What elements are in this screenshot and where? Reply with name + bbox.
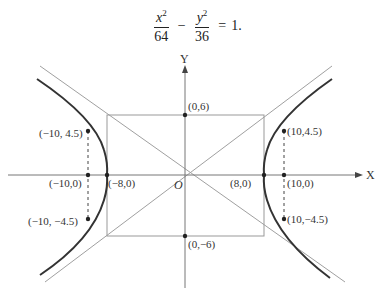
point-left-foot — [86, 173, 90, 177]
label-bottom: (0,−6) — [188, 238, 216, 251]
label-right-lower: (10,−4.5) — [287, 213, 328, 226]
point-right-vertex — [262, 173, 266, 177]
point-left-lower — [86, 217, 90, 221]
label-top: (0,6) — [188, 100, 209, 113]
label-left-upper: (−10, 4.5) — [39, 127, 83, 140]
origin-label: O — [174, 178, 183, 192]
point-left-upper — [86, 129, 90, 133]
point-right-lower — [282, 217, 286, 221]
y-axis-arrow-icon — [182, 65, 188, 73]
label-right-upper: (10,4.5) — [287, 125, 322, 138]
point-bottom — [183, 234, 187, 238]
label-left-vertex: (−8,0) — [108, 177, 136, 190]
x-axis-arrow-icon — [355, 172, 363, 178]
point-top — [183, 113, 187, 117]
label-right-foot: (10,0) — [287, 177, 314, 190]
label-right-vertex: (8,0) — [230, 177, 251, 190]
label-left-foot: (−10,0) — [49, 177, 82, 190]
x-axis-label: X — [366, 168, 375, 182]
hyperbola-diagram: X Y O (0,6) (0,−6) (−8,0) (8,0) (−10,0) … — [0, 0, 384, 300]
y-axis-label: Y — [180, 52, 189, 66]
point-right-upper — [282, 129, 286, 133]
point-right-foot — [282, 173, 286, 177]
label-left-lower: (−10, −4.5) — [28, 215, 78, 228]
